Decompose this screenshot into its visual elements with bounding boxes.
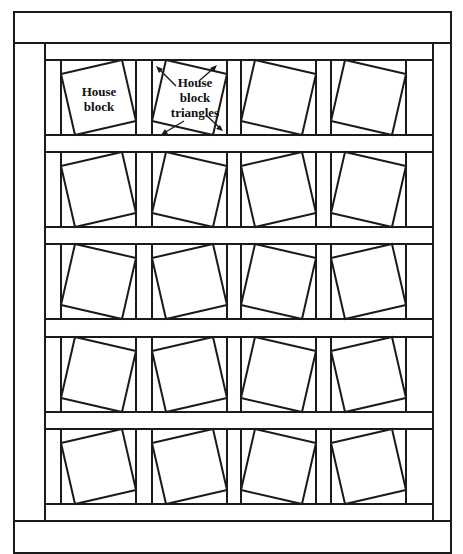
house-block-label: House block: [70, 84, 128, 114]
label-line: block: [160, 90, 230, 105]
house-block-r2-c3: [241, 152, 316, 227]
label-line: block: [70, 99, 128, 114]
house-block-r5-c2: [152, 429, 227, 504]
label-line: triangles: [160, 105, 230, 120]
house-block-r5-c1: [61, 429, 136, 504]
house-block-r5-c4: [331, 429, 406, 504]
house-block-r3-c1: [61, 244, 136, 319]
house-block-r1-c3: [241, 60, 316, 135]
house-block-r2-c2: [152, 152, 227, 227]
house-block-r4-c3: [241, 337, 316, 412]
house-block-r5-c3: [241, 429, 316, 504]
label-line: House: [70, 84, 128, 99]
house-block-r1-c4: [331, 60, 406, 135]
house-block-r2-c1: [61, 152, 136, 227]
house-block-r4-c2: [152, 337, 227, 412]
house-block-r4-c1: [61, 337, 136, 412]
label-line: House: [160, 75, 230, 90]
house-block-r3-c4: [331, 244, 406, 319]
house-block-r2-c4: [331, 152, 406, 227]
house-block-r4-c4: [331, 337, 406, 412]
house-block-r3-c3: [241, 244, 316, 319]
house-block-r3-c2: [152, 244, 227, 319]
house-block-triangles-label: House block triangles: [160, 75, 230, 120]
